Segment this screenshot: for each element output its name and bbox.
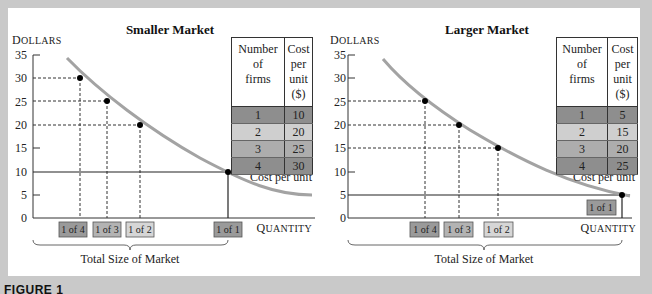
right-bracket-label: Total Size of Market xyxy=(435,252,534,266)
left-bracket xyxy=(33,240,228,250)
svg-text:35: 35 xyxy=(15,48,27,62)
table-row: 220 xyxy=(232,124,313,141)
right-y-axis-label: DOLLARS xyxy=(330,33,380,47)
table-row: 425 xyxy=(557,158,638,175)
svg-text:10: 10 xyxy=(334,165,346,179)
left-table-header-cost: Cost per unit ($) xyxy=(285,38,313,107)
svg-text:1 of 4: 1 of 4 xyxy=(61,224,84,235)
svg-text:30: 30 xyxy=(334,71,346,85)
svg-text:1 of 2: 1 of 2 xyxy=(128,224,151,235)
right-y-ticks: 0 5 10 15 20 25 30 35 xyxy=(334,48,346,225)
table-row: 320 xyxy=(557,141,638,158)
left-y-axis-label: DOLLARS xyxy=(12,33,62,47)
svg-text:30: 30 xyxy=(15,71,27,85)
right-table-header-cost: Cost per unit ($) xyxy=(608,38,638,107)
right-chart-title: Larger Market xyxy=(445,22,530,37)
table-row: 325 xyxy=(232,141,313,158)
svg-text:5: 5 xyxy=(21,188,27,202)
svg-text:15: 15 xyxy=(334,141,346,155)
svg-text:15: 15 xyxy=(15,141,27,155)
right-x-axis-label: QUANTITY xyxy=(580,221,636,235)
svg-text:1 of 1: 1 of 1 xyxy=(216,224,239,235)
right-table-header-firms: Number of firms xyxy=(557,38,608,107)
table-row: 15 xyxy=(557,107,638,124)
svg-text:25: 25 xyxy=(15,95,27,109)
left-x-axis-label: QUANTITY xyxy=(256,221,312,235)
svg-text:1 of 1: 1 of 1 xyxy=(589,202,612,213)
svg-text:1 of 3: 1 of 3 xyxy=(447,224,470,235)
table-row: 110 xyxy=(232,107,313,124)
charts-canvas: Smaller Market DOLLARS 0 5 10 15 20 25 3… xyxy=(0,0,652,294)
left-cost-table: Number of firms Cost per unit ($) 110 22… xyxy=(231,37,313,175)
left-share-boxes: 1 of 4 1 of 3 1 of 2 1 of 1 xyxy=(59,222,242,237)
left-bracket-label: Total Size of Market xyxy=(81,252,180,266)
left-chart-title: Smaller Market xyxy=(126,22,215,37)
svg-text:20: 20 xyxy=(15,118,27,132)
figure-label: FIGURE 1 xyxy=(4,283,63,294)
svg-text:35: 35 xyxy=(334,48,346,62)
svg-text:1 of 2: 1 of 2 xyxy=(486,224,509,235)
svg-text:0: 0 xyxy=(340,211,346,225)
left-table-header-firms: Number of firms xyxy=(232,38,285,107)
svg-text:5: 5 xyxy=(340,188,346,202)
right-cost-table: Number of firms Cost per unit ($) 15 215… xyxy=(556,37,638,175)
svg-text:0: 0 xyxy=(21,211,27,225)
table-row: 430 xyxy=(232,158,313,175)
right-bracket xyxy=(348,240,622,250)
svg-text:25: 25 xyxy=(334,95,346,109)
svg-text:1 of 4: 1 of 4 xyxy=(413,224,436,235)
svg-text:20: 20 xyxy=(334,118,346,132)
left-y-ticks: 0 5 10 15 20 25 30 35 xyxy=(15,48,27,225)
svg-text:10: 10 xyxy=(15,165,27,179)
svg-text:1 of 3: 1 of 3 xyxy=(95,224,118,235)
table-row: 215 xyxy=(557,124,638,141)
